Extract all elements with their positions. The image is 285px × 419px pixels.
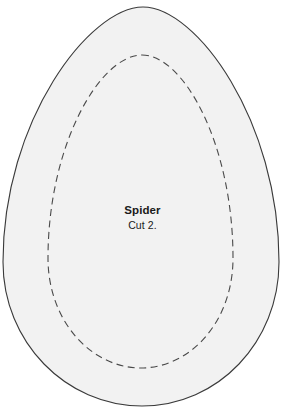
pattern-shape-group: [0, 0, 285, 419]
pattern-canvas: Spider Cut 2.: [0, 0, 285, 419]
cut-line-outline: [3, 7, 279, 406]
